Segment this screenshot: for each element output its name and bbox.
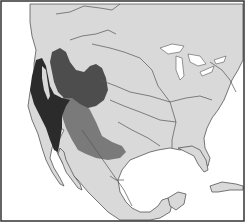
range-map <box>0 0 245 222</box>
